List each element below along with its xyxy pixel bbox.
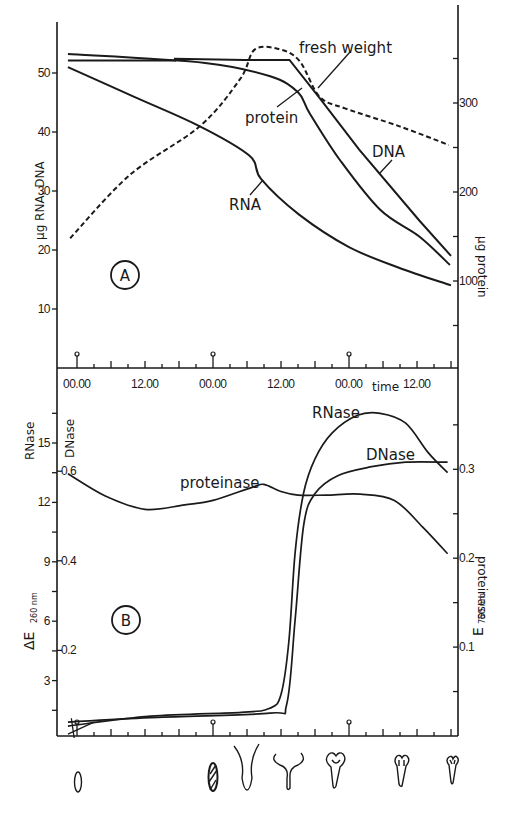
x-tick-label: 12.00 [131,377,159,391]
b-right-axis-unit: E 750 nm [470,593,487,636]
fresh-weight-leader [318,52,350,88]
panel-b-letter: B [121,612,131,630]
b-left-axis-dnase: DNase [63,419,77,458]
series-rna [68,67,451,285]
dna-leader [379,160,392,174]
proteinase-label: proteinase [180,474,260,492]
figure: 00.0012.0000.0012.0000.0012.001020304050… [0,0,526,816]
panel-b: 36912150.20.40.60.10.20.3 RNase DNase pr… [21,368,489,738]
svg-text:E: E [470,627,486,636]
rnase-label: RNase [312,404,360,422]
dnase-tick-label: 0.6 [61,464,77,478]
panel-a-letter: A [120,267,131,285]
stage-icon-trilobed-medium [395,755,409,786]
y-tick-label: 6 [44,614,51,628]
day-marker [211,352,215,356]
y-right-tick-label: 300 [459,96,478,110]
svg-text:ΔE: ΔE [21,632,37,650]
y-right-tick-label: 0.1 [459,640,475,654]
day-marker [75,352,79,356]
protein-leader [277,88,302,107]
svg-text:750 nm: 750 nm [478,593,487,624]
b-left-axis-rnase: RNase [23,422,37,460]
y-tick-label: 15 [38,436,51,450]
stage-icon-v-shape [234,744,259,790]
fresh-weight-label: fresh weight [299,39,392,57]
day-marker [347,352,351,356]
y-tick-label: 20 [38,243,51,257]
dnase-tick-label: 0.4 [61,554,77,568]
stage-icon-trilobed-large [326,753,344,788]
y-tick-label: 3 [44,674,51,688]
dnase-tick-label: 0.2 [61,643,77,657]
panel-a: 00.0012.0000.0012.0000.0012.001020304050… [33,5,489,394]
time-label: time [372,380,399,394]
y-tick-label: 10 [38,302,51,316]
y-tick-label: 12 [38,495,51,509]
svg-text:260 nm: 260 nm [30,592,39,623]
x-tick-label: 12.00 [267,377,295,391]
protein-label: protein [245,109,298,127]
developmental-stage-icons [75,744,459,792]
day-marker [211,720,215,724]
b-left-axis-title: ΔE 260 nm [21,592,39,650]
y-tick-label: 40 [38,125,51,139]
stage-icon-oval [75,772,82,792]
stage-icon-hatched-oval [209,763,218,791]
dnase-label: DNase [366,446,415,464]
y-right-tick-label: 0.2 [459,551,475,565]
a-left-axis-title: µg RNA, DNA [33,161,47,240]
y-tick-label: 9 [44,555,51,569]
stage-icon-cup-shape [274,753,304,790]
x-tick-label: 00.00 [199,377,227,391]
a-curves [68,47,451,286]
y-right-tick-label: 0.3 [459,462,475,476]
y-right-tick-label: 200 [459,185,478,199]
x-tick-label: 12.00 [403,377,431,391]
x-tick-label: 00.00 [63,377,91,391]
series-dnase [68,462,448,722]
dna-label: DNA [372,143,406,161]
stage-icon-trilobed-small [447,756,458,783]
x-tick-label: 00.00 [335,377,363,391]
day-marker [347,720,351,724]
a-right-axis-title: µg protein [475,236,489,298]
rna-leader [250,180,263,195]
rna-label: RNA [229,196,262,214]
y-tick-label: 50 [38,66,51,80]
